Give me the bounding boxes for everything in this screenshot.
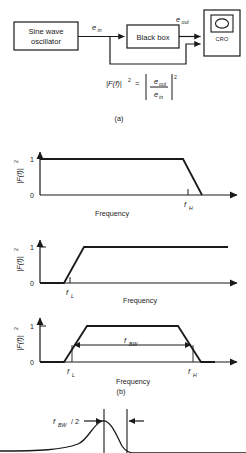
plot3-ytick-1: 1	[30, 323, 34, 330]
plot-low-pass-response: 1 0 f H Frequency |F(f)| 2	[13, 152, 238, 218]
black-box-label: Black box	[137, 33, 170, 42]
oscillator-label-line1: Sine wave	[28, 27, 63, 36]
plot2-ytick-1: 1	[30, 244, 34, 251]
plot3-yaxis-label: |F(f)| 2	[13, 327, 25, 351]
plot2-xtick-subscript: L	[71, 293, 74, 299]
cro-block: CRO	[204, 10, 240, 56]
equation-numerator-subscript: out	[159, 81, 167, 87]
figure-svg: Sine wave oscillator e in Black box e ou…	[0, 0, 246, 453]
detail-annotation-symbol: f	[53, 417, 56, 426]
plot3-xaxis-label: Frequency	[116, 377, 150, 386]
equation-equals-sign: =	[135, 79, 140, 88]
transfer-function-equation: |F(f)| 2 = e out e in 2	[106, 74, 177, 100]
plot1-yaxis-label: |F(f)| 2	[13, 160, 25, 184]
ellipse-trace-icon	[216, 19, 229, 28]
black-box-block: Black box	[127, 25, 179, 48]
signal-in-subscript: in	[98, 27, 102, 33]
plot2-xaxis-label: Frequency	[123, 296, 157, 305]
caption-a: (a)	[115, 114, 124, 123]
resonance-peak-curve	[0, 421, 246, 453]
plot3-xtick-high-symbol: f	[188, 367, 191, 376]
detail-annotation-subscript: BW	[58, 422, 67, 428]
cro-label: CRO	[215, 36, 228, 42]
plot2-xtick-symbol: f	[66, 288, 69, 297]
plot1-xaxis-label: Frequency	[95, 209, 129, 218]
plot-band-pass-response: 1 0 f BW f L f H Frequency |F(f)| 2	[13, 318, 238, 386]
plot1-xtick-subscript: H	[189, 205, 193, 211]
signal-in-symbol: e	[92, 23, 96, 32]
equation-numerator-symbol: e	[154, 77, 158, 86]
plot3-yaxis-function: |F(f)|	[15, 335, 24, 350]
half-bandwidth-detail-plot: f BW / 2	[0, 409, 246, 453]
plot3-bandwidth-symbol: f	[124, 336, 127, 345]
plot3-response-curve	[40, 326, 215, 362]
signal-out-subscript: out	[182, 19, 190, 25]
oscillator-label-line2: oscillator	[31, 37, 61, 46]
plot2-yaxis-label: |F(f)| 2	[13, 248, 25, 272]
equation-denominator-subscript: in	[159, 94, 163, 100]
signal-in-label: e in	[92, 23, 102, 33]
figure-container: Sine wave oscillator e in Black box e ou…	[0, 0, 246, 453]
signal-out-label: e	[176, 15, 180, 24]
plot2-yaxis-function: |F(f)|	[15, 256, 24, 271]
plot3-yaxis-exponent: 2	[13, 327, 19, 330]
plot2-response-curve	[40, 247, 228, 283]
detail-annotation-rest: / 2	[71, 417, 79, 426]
equation-rhs-exponent: 2	[174, 74, 177, 80]
plot1-ytick-1: 1	[30, 156, 34, 163]
sine-wave-oscillator-block: Sine wave oscillator	[14, 22, 78, 50]
plot3-ytick-0: 0	[30, 359, 34, 366]
plot3-bandwidth-subscript: BW	[129, 341, 138, 347]
plot1-ytick-0: 0	[30, 192, 34, 199]
plot2-ytick-0: 0	[30, 280, 34, 287]
plot1-xtick-symbol: f	[184, 200, 187, 209]
plot3-xtick-low-symbol: f	[67, 367, 70, 376]
equation-denominator-symbol: e	[154, 90, 158, 99]
plot1-yaxis-function: |F(f)|	[15, 168, 24, 183]
equation-lhs-exponent: 2	[128, 77, 131, 83]
signal-out-symbol: e	[176, 15, 180, 24]
plot-high-pass-response: 1 0 f L Frequency |F(f)| 2	[13, 240, 238, 305]
plot3-xtick-low-subscript: L	[72, 372, 75, 378]
caption-b: (b)	[117, 387, 126, 396]
plot2-yaxis-exponent: 2	[13, 248, 19, 251]
plot1-yaxis-exponent: 2	[13, 160, 19, 163]
equation-lhs-function: |F(f)|	[106, 79, 122, 88]
plot3-xtick-high-subscript: H	[193, 372, 197, 378]
plot1-response-curve	[40, 159, 202, 195]
